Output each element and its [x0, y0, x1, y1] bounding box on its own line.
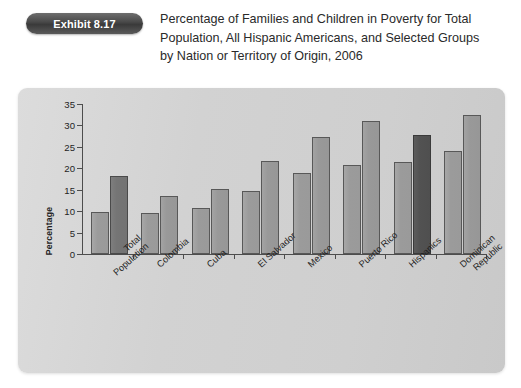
plot-wrapper: Percentage 05101520253035 TotalPopulatio…: [18, 88, 505, 373]
title-line-3: by Nation or Territory of Origin, 2006: [160, 47, 510, 66]
y-tick-label: 15: [64, 184, 75, 195]
y-tick-mark: [77, 168, 82, 169]
y-tick-mark: [77, 104, 82, 105]
x-tick-mark: [436, 254, 437, 259]
exhibit-header: Exhibit 8.17 Percentage of Families and …: [0, 0, 521, 88]
y-tick-label: 30: [64, 120, 75, 131]
y-tick-mark: [77, 233, 82, 234]
bar-families: [444, 151, 462, 254]
y-tick-mark: [77, 125, 82, 126]
bar-families: [192, 208, 210, 254]
y-tick-mark: [77, 254, 82, 255]
y-tick-mark: [77, 147, 82, 148]
y-tick-label: 20: [64, 163, 75, 174]
page-title: Percentage of Families and Children in P…: [160, 10, 510, 66]
y-axis-line: [82, 104, 83, 255]
x-tick-mark: [284, 254, 285, 259]
bar-group: [343, 104, 380, 254]
y-tick-mark: [77, 190, 82, 191]
y-tick-mark: [77, 211, 82, 212]
x-tick-mark: [183, 254, 184, 259]
x-tick-mark: [234, 254, 235, 259]
y-tick-label: 10: [64, 206, 75, 217]
y-tick-label: 5: [70, 227, 75, 238]
bar-families: [242, 191, 260, 254]
bar-under18: [261, 161, 279, 254]
bar-group: [91, 104, 128, 254]
chart-panel: Percentage 05101520253035 TotalPopulatio…: [18, 88, 505, 373]
bar-under18: [413, 135, 431, 254]
bar-group: [192, 104, 229, 254]
x-tick-mark: [335, 254, 336, 259]
bar-families: [293, 173, 311, 254]
x-tick-mark: [385, 254, 386, 259]
bar-under18: [463, 115, 481, 254]
y-tick-label: 35: [64, 99, 75, 110]
bar-group: [293, 104, 330, 254]
plot-area: 05101520253035 TotalPopulationColombiaCu…: [82, 104, 486, 254]
bar-under18: [362, 121, 380, 254]
bar-under18: [211, 189, 229, 254]
title-line-2: Population, All Hispanic Americans, and …: [160, 29, 510, 48]
bar-families: [343, 165, 361, 254]
bar-group: [444, 104, 481, 254]
y-tick-label: 25: [64, 141, 75, 152]
title-line-1: Percentage of Families and Children in P…: [160, 10, 510, 29]
bar-group: [242, 104, 279, 254]
bar-group: [141, 104, 178, 254]
y-axis-title: Percentage: [44, 191, 54, 271]
exhibit-badge-label: Exhibit 8.17: [53, 18, 115, 30]
bar-families: [91, 212, 109, 254]
bar-under18: [312, 137, 330, 254]
bar-group: [394, 104, 431, 254]
exhibit-badge: Exhibit 8.17: [26, 13, 143, 34]
y-tick-label: 0: [70, 249, 75, 260]
